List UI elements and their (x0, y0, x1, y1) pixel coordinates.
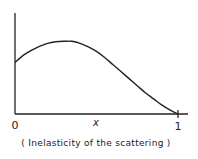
chart-caption: ( Inelasticity of the scattering ) (21, 138, 170, 148)
x-tick-label-0: 0 (12, 119, 19, 132)
chart: 0 1 x ( Inelasticity of the scattering ) (0, 0, 198, 159)
x-tick-label-1: 1 (175, 120, 182, 133)
distribution-curve (15, 41, 178, 114)
x-axis-label: x (92, 117, 99, 128)
